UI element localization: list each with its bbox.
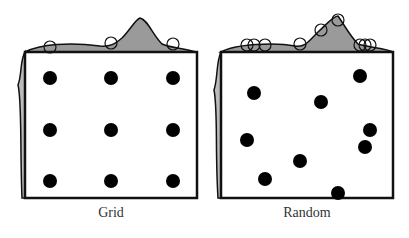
sample-point bbox=[331, 186, 345, 200]
sample-point bbox=[247, 86, 261, 100]
sample-point bbox=[104, 174, 118, 188]
random-caption: Random bbox=[217, 205, 397, 221]
sample-point bbox=[104, 71, 118, 85]
sample-point bbox=[293, 154, 307, 168]
sample-point bbox=[258, 172, 272, 186]
sample-point bbox=[166, 71, 180, 85]
sample-point bbox=[166, 123, 180, 137]
sample-point bbox=[43, 71, 57, 85]
sample-point bbox=[353, 69, 367, 83]
diagram-canvas bbox=[0, 0, 409, 238]
sample-point bbox=[358, 140, 372, 154]
sample-point bbox=[363, 123, 377, 137]
grid-top-density bbox=[25, 18, 196, 52]
random-panel bbox=[214, 14, 393, 200]
sample-point bbox=[314, 95, 328, 109]
grid-caption: Grid bbox=[21, 205, 201, 221]
sample-point bbox=[240, 133, 254, 147]
sample-point bbox=[43, 123, 57, 137]
sample-point bbox=[104, 123, 118, 137]
sample-point bbox=[166, 174, 180, 188]
sample-point bbox=[43, 174, 57, 188]
random-top-density bbox=[221, 16, 393, 52]
grid-panel bbox=[18, 18, 197, 198]
